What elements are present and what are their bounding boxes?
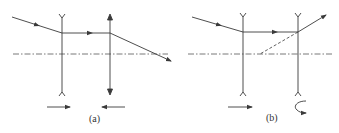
rotation-arrow-b [295,101,306,113]
virtual-extension-b [260,32,298,54]
output-ray-a [110,33,171,61]
panel-label-a: (a) [89,113,100,125]
concave-lens-b2 [295,13,301,96]
convex-lens-a2 [108,14,113,95]
panel-label-b: (b) [266,112,278,124]
panel-a: (a) [12,14,171,125]
incident-ray-a [12,17,62,33]
concave-lens-a1 [59,14,65,96]
output-ray-b [298,15,326,32]
incident-ray-b [192,17,243,32]
panel-b: (b) [188,13,332,124]
concave-lens-b1 [240,13,246,96]
optics-diagram: (a) [0,0,339,133]
